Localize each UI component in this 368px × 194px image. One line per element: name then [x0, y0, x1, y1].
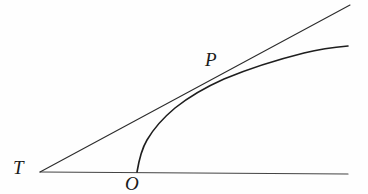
point-label-o: O [125, 174, 139, 193]
curve [137, 46, 348, 172]
baseline-horizontal-line [40, 172, 348, 174]
geometry-figure: T O P [0, 0, 368, 194]
figure-canvas [0, 0, 368, 194]
tangent-line [40, 5, 350, 172]
point-label-t: T [13, 158, 24, 177]
point-label-p: P [205, 50, 217, 69]
